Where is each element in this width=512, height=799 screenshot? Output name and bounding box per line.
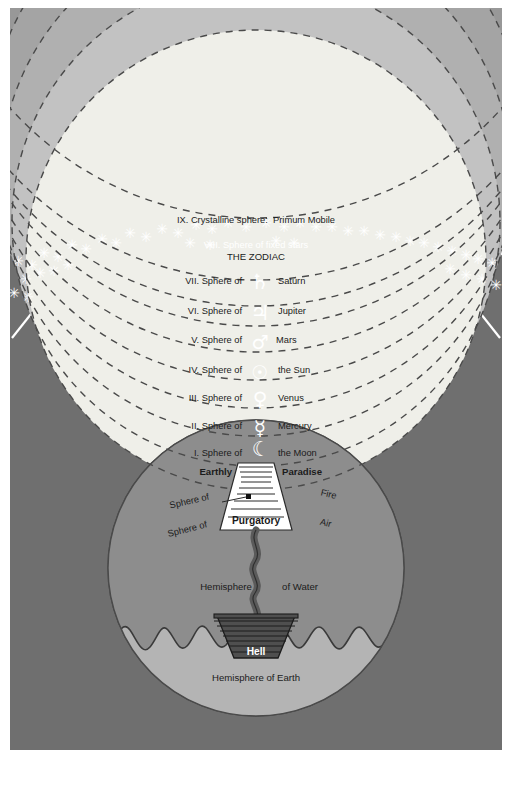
- purgatory-label: Purgatory: [232, 515, 280, 526]
- sphere-iii-body: Venus: [278, 393, 304, 403]
- sphere-ii-body: Mercury: [278, 421, 312, 431]
- hell-label: Hell: [247, 646, 266, 657]
- svg-text:✳: ✳: [418, 235, 430, 251]
- svg-text:✳: ✳: [342, 223, 354, 239]
- hemisphere-earth-label: Hemisphere of Earth: [212, 672, 300, 683]
- svg-text:✳: ✳: [460, 247, 472, 263]
- zodiac-label: THE ZODIAC: [227, 251, 285, 262]
- sun-icon: ☉: [251, 361, 268, 383]
- hemisphere-water-right: of Water: [282, 581, 319, 592]
- svg-text:✳: ✳: [404, 233, 416, 249]
- earthly-paradise-left: Earthly: [199, 466, 232, 477]
- hemisphere-water-left: Hemisphere: [200, 581, 252, 592]
- sphere-v-label: V. Sphere of: [191, 335, 242, 345]
- diagram-frame: Heaven: [10, 8, 502, 750]
- mars-icon: ♂: [251, 331, 268, 353]
- svg-text:✳: ✳: [140, 229, 152, 245]
- sphere-vi-label: VI. Sphere of: [188, 306, 243, 316]
- sphere-iii-label: III. Sphere of: [189, 393, 243, 403]
- svg-text:✳: ✳: [490, 277, 502, 293]
- jupiter-icon: ♃: [251, 301, 270, 325]
- earthly-paradise-right: Paradise: [282, 466, 322, 477]
- svg-text:✳: ✳: [172, 225, 184, 241]
- sphere-ix-label: IX. Crystalline sphere: Primum Mobile: [177, 215, 335, 225]
- sphere-vi-body: Jupiter: [278, 306, 306, 316]
- purgatory-marker: [246, 494, 251, 499]
- sphere-ix-label-group: IX. Crystalline sphere: Primum Mobile: [177, 215, 335, 225]
- svg-text:✳: ✳: [390, 229, 402, 245]
- svg-text:✳: ✳: [38, 245, 50, 261]
- saturn-icon: ♄: [251, 270, 270, 294]
- cosmology-diagram: Heaven: [10, 8, 502, 750]
- svg-text:✳: ✳: [124, 225, 136, 241]
- svg-text:✳: ✳: [358, 223, 370, 239]
- svg-text:✳: ✳: [446, 243, 458, 259]
- svg-text:✳: ✳: [156, 221, 168, 237]
- sphere-ii-label: II. Sphere of: [191, 421, 242, 431]
- svg-text:✳: ✳: [432, 239, 444, 255]
- moon-icon: ☾: [252, 437, 271, 461]
- svg-text:✳: ✳: [184, 235, 196, 251]
- sphere-i-body: the Moon: [278, 448, 317, 458]
- sphere-iv-body: the Sun: [278, 365, 310, 375]
- sphere-vii-label: VII. Sphere of: [185, 276, 242, 286]
- sphere-vii-body: Saturn: [278, 276, 305, 286]
- svg-text:✳: ✳: [374, 227, 386, 243]
- diagram-page: Heaven: [0, 0, 512, 799]
- venus-icon: ♀: [253, 387, 268, 411]
- svg-text:✳: ✳: [62, 257, 74, 273]
- sphere-v-body: Mars: [276, 335, 297, 345]
- svg-text:✳: ✳: [80, 241, 92, 257]
- sphere-viii-label: VIII. Sphere of fixed stars: [204, 240, 309, 250]
- sphere-i-label: I. Sphere of: [194, 448, 242, 458]
- sphere-iv-label: IV. Sphere of: [189, 365, 243, 375]
- svg-text:✳: ✳: [10, 285, 20, 301]
